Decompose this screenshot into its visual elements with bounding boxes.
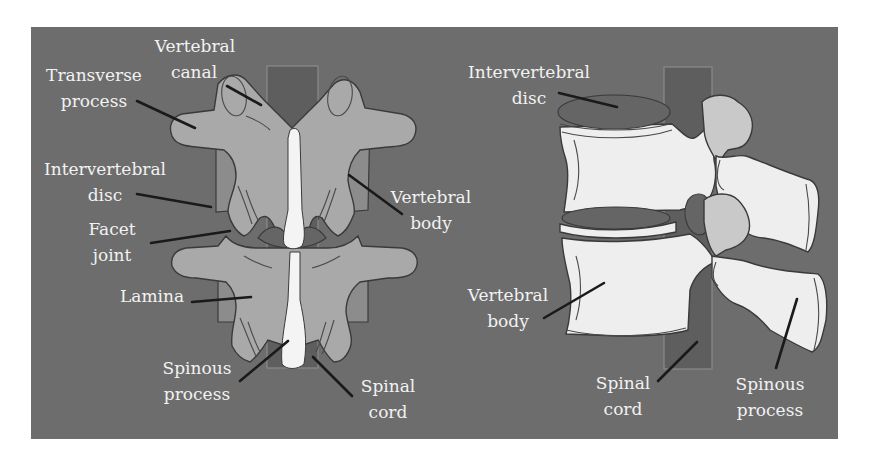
label-lamina: Lamina <box>120 286 184 306</box>
spine-anatomy-figure: Vertebralcanal Transverseprocess Interve… <box>0 0 872 465</box>
lateral-middle-disc-shape <box>562 207 670 229</box>
lateral-top-disc-shape <box>558 95 670 129</box>
